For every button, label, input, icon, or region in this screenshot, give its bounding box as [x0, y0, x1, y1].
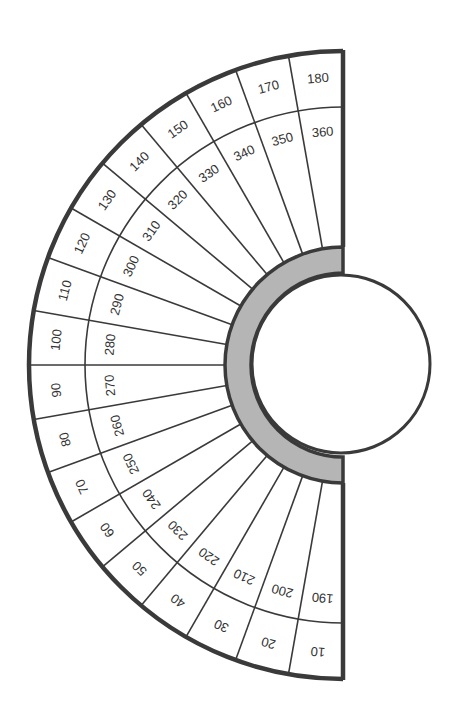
outer-label-60: 60	[97, 520, 118, 540]
outer-label-180: 180	[306, 70, 329, 87]
inner-label-230: 230	[165, 517, 191, 543]
outer-label-10: 10	[310, 644, 326, 660]
inner-label-190: 190	[311, 590, 334, 607]
outer-label-160: 160	[208, 93, 234, 116]
inner-label-350: 350	[270, 129, 295, 149]
inner-label-280: 280	[101, 333, 118, 356]
outer-label-150: 150	[165, 117, 191, 142]
inner-label-250: 250	[120, 451, 143, 477]
outer-label-120: 120	[71, 230, 94, 256]
outer-label-20: 20	[260, 634, 278, 652]
inner-label-300: 300	[120, 253, 143, 279]
inner-label-340: 340	[231, 142, 257, 165]
sector-divider-line	[236, 476, 303, 660]
inner-label-220: 220	[196, 544, 222, 569]
sector-divider-line	[48, 258, 232, 325]
outer-label-30: 30	[212, 616, 231, 636]
inner-label-290: 290	[107, 292, 127, 317]
outer-label-50: 50	[129, 558, 150, 579]
sector-divider-line	[236, 70, 303, 254]
inner-label-200: 200	[270, 581, 295, 601]
inner-label-270: 270	[101, 374, 118, 397]
inner-label-260: 260	[107, 413, 127, 438]
outer-label-130: 130	[95, 187, 120, 213]
outer-label-40: 40	[168, 591, 188, 612]
inner-label-360: 360	[311, 123, 334, 140]
inner-label-240: 240	[139, 486, 164, 512]
sector-divider-line	[48, 405, 232, 472]
outer-label-100: 100	[48, 328, 65, 351]
outer-label-70: 70	[72, 477, 92, 496]
semicircular-degree-dial: 1020304050607080901001101201301401501601…	[0, 0, 459, 718]
inner-label-320: 320	[165, 187, 191, 213]
outer-label-80: 80	[56, 431, 74, 449]
outer-label-110: 110	[55, 279, 75, 303]
center-circle	[252, 275, 430, 453]
outer-label-170: 170	[256, 77, 281, 97]
outer-label-90: 90	[48, 382, 64, 398]
outer-label-140: 140	[126, 148, 152, 174]
inner-label-330: 330	[196, 161, 222, 186]
inner-label-210: 210	[231, 566, 257, 589]
inner-label-310: 310	[139, 218, 164, 244]
